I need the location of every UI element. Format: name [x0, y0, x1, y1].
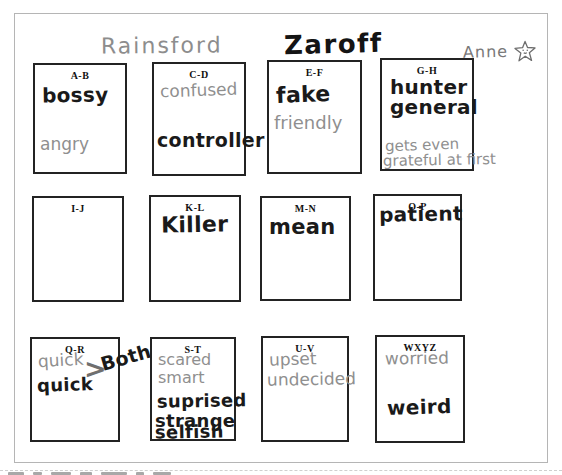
trait-entry: upset: [269, 350, 317, 369]
trait-box-cd: C-D confused controller: [152, 62, 246, 176]
trait-entry: patient: [379, 203, 463, 224]
trait-entry: controller: [157, 131, 265, 150]
character-name-zaroff: Zaroff: [284, 30, 383, 59]
trait-entry: mean: [269, 217, 335, 238]
trait-box-gh: G-H hunter general gets even grateful at…: [380, 58, 474, 171]
box-label-ab: A-B: [35, 70, 125, 81]
student-name: Anne: [463, 36, 539, 65]
trait-entry: selfish: [155, 422, 224, 441]
trait-entry: grateful at first: [383, 152, 496, 169]
trait-entry: general: [390, 97, 478, 117]
trait-entry: undecided: [267, 370, 356, 389]
trait-entry: fake: [276, 83, 331, 107]
trait-entry: worried: [385, 349, 449, 367]
trait-entry: suprised: [157, 391, 247, 411]
trait-box-wxyz: WXYZ worried weird: [375, 335, 465, 443]
trait-entry: confused: [160, 81, 238, 101]
trait-entry: smart: [158, 370, 205, 386]
box-label-mn: M-N: [262, 203, 349, 214]
trait-entry: Killer: [161, 213, 229, 236]
box-label-ef: E-F: [269, 67, 360, 78]
star-doodle-icon: [512, 38, 538, 64]
trait-entry: hunter: [390, 77, 468, 97]
trait-entry: bossy: [42, 84, 109, 105]
trait-box-uv: U-V upset undecided: [261, 336, 349, 442]
trait-box-qr: Q-R quick quick > Both!: [30, 337, 120, 442]
trait-box-op: O-P patient: [373, 194, 462, 301]
trait-box-mn: M-N mean: [260, 196, 351, 301]
trait-entry: scared: [158, 352, 211, 368]
trait-entry: friendly: [274, 114, 342, 132]
character-name-rainsford: Rainsford: [101, 34, 223, 57]
trait-box-ef: E-F fake friendly: [267, 60, 362, 174]
trait-box-kl: K-L Killer: [149, 195, 241, 302]
box-label-ij: I-J: [34, 203, 122, 214]
trait-entry: weird: [387, 396, 452, 418]
page-edge-line: [0, 470, 562, 471]
trait-entry: quick: [38, 351, 84, 370]
scanned-worksheet: Rainsford Zaroff Anne A-B bossy angry C-…: [0, 0, 562, 475]
trait-box-st: S-T scared smart suprised strange selfis…: [150, 337, 236, 441]
trait-box-ab: A-B bossy angry: [33, 63, 127, 174]
trait-box-ij: I-J: [32, 196, 124, 302]
trait-entry: angry: [40, 136, 89, 153]
